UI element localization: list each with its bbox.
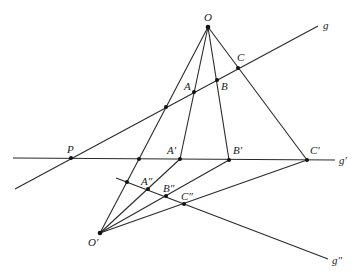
label-g-double-prime: g″: [332, 254, 343, 266]
line-g-prime: [13, 158, 335, 160]
label-b-double-prime: B″: [163, 182, 175, 194]
label-c: C: [237, 51, 245, 63]
point-p: [69, 156, 73, 160]
point-c-double-prime: [182, 202, 186, 206]
ray-o-x0: [139, 27, 208, 159]
ray-o1-c1: [100, 160, 307, 233]
label-o-prime: O′: [88, 236, 99, 248]
label-o: O: [204, 11, 212, 23]
ray-o-c1: [208, 27, 307, 160]
point-b-prime: [227, 158, 231, 162]
label-g-prime: g′: [339, 154, 348, 166]
label-a: A: [183, 80, 191, 92]
label-b: B: [221, 80, 228, 92]
label-g: g: [323, 19, 329, 31]
label-a-double-prime: A″: [140, 175, 153, 187]
point-y0: [125, 180, 129, 184]
label-p: P: [66, 143, 74, 155]
label-b-prime: B′: [233, 144, 243, 156]
label-c-prime: C′: [310, 144, 320, 156]
point-a: [192, 90, 196, 94]
label-a-prime: A′: [166, 144, 177, 156]
point-c-prime: [305, 158, 309, 162]
point-o: [206, 25, 211, 30]
point-o-prime: [98, 231, 103, 236]
point-a-prime: [178, 157, 182, 161]
point-b-double-prime: [164, 194, 168, 198]
ray-o-b1: [208, 27, 229, 160]
point-g0: [164, 105, 168, 109]
label-c-double-prime: C″: [181, 190, 193, 202]
point-x0: [137, 157, 141, 161]
point-b: [215, 78, 219, 82]
perspectivity-diagram: O A B C P A′ B′ C′ O′ A″ B″ C″ g g′ g″: [0, 0, 357, 276]
point-c: [236, 66, 240, 70]
point-a-double-prime: [146, 187, 150, 191]
